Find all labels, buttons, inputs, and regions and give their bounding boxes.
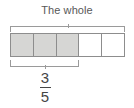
bar-cell-unshaded-4 bbox=[79, 34, 102, 56]
fraction-bar bbox=[10, 33, 125, 57]
whole-label: The whole bbox=[0, 4, 134, 17]
fraction-numerator: 3 bbox=[30, 70, 60, 86]
whole-bracket bbox=[10, 26, 125, 32]
bar-cell-shaded-1 bbox=[11, 34, 34, 56]
fraction-label: 3 5 bbox=[30, 70, 60, 105]
part-bracket bbox=[10, 60, 79, 67]
whole-bracket-tick bbox=[68, 24, 69, 28]
bar-cell-unshaded-5 bbox=[102, 34, 124, 56]
fraction-denominator: 5 bbox=[30, 89, 60, 105]
bar-cell-shaded-2 bbox=[34, 34, 57, 56]
fraction-bar-diagram: The whole 3 5 bbox=[0, 0, 134, 108]
bar-cell-shaded-3 bbox=[57, 34, 80, 56]
